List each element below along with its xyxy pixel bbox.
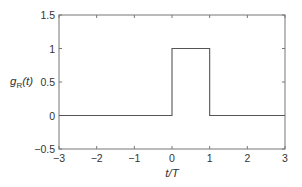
y-tick-label: 0.5	[40, 76, 55, 88]
x-tick-label: 2	[244, 152, 250, 164]
y-tick-label: −0.5	[34, 143, 55, 155]
x-tick-label: −1	[128, 152, 140, 164]
y-axis-label: gR(t)	[10, 75, 33, 90]
x-axis-label: t/T	[165, 167, 179, 179]
x-ticks: −3−2−10123	[53, 15, 288, 164]
x-tick-label: 0	[169, 152, 175, 164]
y-ticks: −0.500.511.5	[34, 9, 285, 155]
x-tick-label: 3	[282, 152, 288, 164]
x-tick-label: −2	[91, 152, 103, 164]
y-axis-label-arg: (t)	[22, 75, 33, 87]
x-tick-label: 1	[207, 152, 213, 164]
y-tick-label: 1.5	[40, 9, 55, 21]
chart: −3−2−10123 −0.500.511.5 t/T gR(t)	[0, 0, 302, 187]
series-line-g-r	[59, 49, 285, 116]
y-tick-label: 1	[49, 43, 55, 55]
y-tick-label: 0	[49, 110, 55, 122]
